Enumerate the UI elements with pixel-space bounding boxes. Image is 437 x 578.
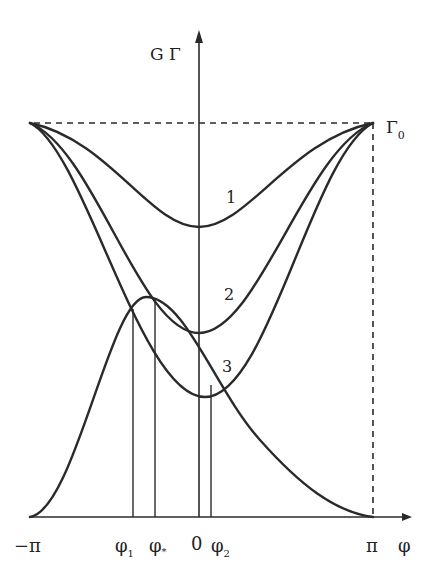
gamma0-label: Γ0 xyxy=(386,117,405,142)
curve-3-label: 3 xyxy=(222,357,232,376)
tick-phi1: φ1 xyxy=(115,535,134,559)
tick-minus-pi: −π xyxy=(14,535,41,556)
y-axis-arrow-icon xyxy=(195,30,203,43)
y-axis-label: G Γ xyxy=(150,44,181,64)
x-axis-label: φ xyxy=(398,535,411,556)
tick-phi-star: φ* xyxy=(149,535,167,557)
curve-1-label: 1 xyxy=(226,188,236,207)
tick-pi: π xyxy=(366,535,378,556)
curve-2-label: 2 xyxy=(224,285,234,304)
x-axis-arrow-icon xyxy=(402,513,412,521)
g-curve xyxy=(30,297,373,517)
tick-phi2: φ2 xyxy=(211,535,230,559)
gamma-curve-3 xyxy=(30,123,373,397)
tick-zero: 0 xyxy=(191,533,202,554)
diagram-canvas: G Γ Γ0 1 2 3 −π φ1 φ* 0 φ2 π φ xyxy=(0,0,437,578)
